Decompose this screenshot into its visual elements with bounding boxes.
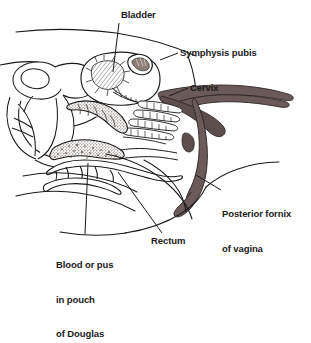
leader-blood-pus	[85, 163, 88, 234]
leader-rectum	[118, 172, 162, 233]
label-cervix: Cervix	[190, 82, 218, 94]
label-rectum: Rectum	[151, 235, 185, 247]
label-blood-or-pus-line1: Blood or pus	[56, 259, 113, 271]
label-blood-or-pus: Blood or pus in pouch of Douglas	[56, 236, 113, 343]
label-symphysis-pubis: Symphysis pubis	[180, 47, 257, 59]
label-posterior-fornix-line1: Posterior fornix	[222, 208, 291, 220]
label-posterior-fornix-line2: of vagina	[222, 243, 291, 255]
leader-symphysis	[160, 53, 178, 60]
label-blood-or-pus-line3: of Douglas	[56, 328, 113, 340]
broad-ligament-bands	[123, 101, 183, 144]
label-posterior-fornix: Posterior fornix of vagina	[222, 185, 291, 277]
label-blood-or-pus-line2: in pouch	[56, 294, 113, 306]
label-bladder: Bladder	[121, 9, 156, 21]
rectum-outline	[43, 160, 182, 194]
